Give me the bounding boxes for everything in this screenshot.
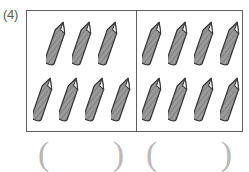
paren-open-left: ( (38, 138, 49, 170)
answer-blank-left[interactable] (49, 154, 112, 155)
pencil-icon (98, 18, 118, 68)
pencil-icon (142, 18, 162, 68)
pencil-icon (59, 74, 79, 124)
left-group-row-top (27, 17, 136, 69)
pencil-icon (85, 74, 105, 124)
paren-open-right: ( (146, 138, 157, 170)
pencil-icon (220, 74, 240, 124)
pencil-icon (142, 74, 162, 124)
worksheet-item: (4) ( ) ( ) (0, 0, 249, 172)
left-group-row-bottom (27, 73, 136, 125)
answer-parens-left[interactable]: ( ) (38, 138, 124, 170)
paren-close-right: ) (221, 138, 232, 170)
pencil-icon (194, 18, 214, 68)
right-group-row-top (137, 17, 244, 69)
pencil-icon (111, 74, 131, 124)
right-group-row-bottom (137, 73, 244, 125)
pencil-icon (46, 18, 66, 68)
answer-parens-right[interactable]: ( ) (146, 138, 232, 170)
groups-frame (26, 10, 243, 132)
paren-close-left: ) (113, 138, 124, 170)
pencil-icon (194, 74, 214, 124)
group-cell-right (137, 11, 244, 131)
pencil-icon (168, 74, 188, 124)
pencil-icon (33, 74, 53, 124)
pencil-icon (168, 18, 188, 68)
item-number-label: (4) (3, 7, 18, 22)
pencil-icon (72, 18, 92, 68)
answer-blank-right[interactable] (157, 154, 220, 155)
group-cell-left (27, 11, 137, 131)
pencil-icon (220, 18, 240, 68)
